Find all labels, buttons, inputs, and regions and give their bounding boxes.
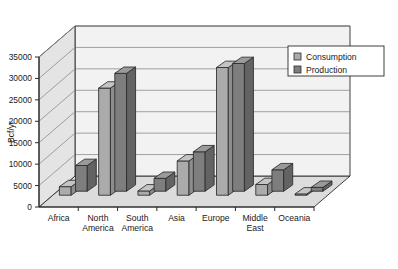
chart-legend: ConsumptionProduction [288, 46, 384, 76]
x-axis-label-asia: Asia [168, 213, 185, 223]
legend-label-consumption: Consumption [306, 52, 357, 62]
bar-production-5-front [272, 170, 284, 191]
bar-production-3-side [205, 145, 214, 191]
bar-production-5 [272, 163, 293, 191]
bar-production-1-side [127, 67, 136, 191]
legend-swatch-consumption [294, 53, 301, 60]
bar-production-4-side [244, 57, 253, 191]
bar-consumption-0-front [59, 187, 71, 196]
y-axis-tick-label-10000: 10000 [9, 159, 33, 169]
x-axis-label-north-america-line0: North [87, 213, 108, 223]
chart-left-wall [39, 26, 75, 207]
bar-chart-3d: 05000100001500020000250003000035000Bcf/y… [0, 0, 398, 269]
x-axis-label-middle-east-line0: Middle [242, 213, 268, 223]
bar-production-1-front [115, 73, 127, 191]
x-axis-label-africa: Africa [48, 213, 70, 223]
y-axis: 05000100001500020000250003000035000Bcf/y… [6, 52, 39, 212]
x-axis-label-north-america-line1: America [82, 223, 114, 233]
x-axis-label-middle-east-line1: East [246, 223, 264, 233]
chart-container: 05000100001500020000250003000035000Bcf/y… [0, 0, 398, 269]
x-axis-label-oceania: Oceania [278, 213, 310, 223]
y-axis-tick-label-0: 0 [27, 202, 32, 212]
y-axis-tick-label-25000: 25000 [9, 95, 33, 105]
y-axis-tick-label-30000: 30000 [9, 73, 33, 83]
bar-production-0 [76, 159, 97, 191]
bar-production-1 [115, 67, 136, 191]
bar-production-2-front [154, 178, 166, 191]
legend-swatch-production [294, 66, 301, 73]
bar-production-0-front [76, 166, 88, 192]
bar-consumption-2-front [138, 191, 150, 195]
y-axis-title: Bcf/yr [6, 121, 16, 143]
bar-consumption-4-front [217, 68, 229, 196]
x-axis-labels: AfricaNorthAmericaSouthAmericaAsiaEurope… [39, 207, 314, 233]
x-axis-label-europe: Europe [202, 213, 230, 223]
bar-production-3 [193, 145, 214, 191]
legend-label-production: Production [306, 65, 347, 75]
bar-consumption-3-front [177, 161, 189, 195]
y-axis-tick-label-5000: 5000 [13, 181, 32, 191]
bar-consumption-1-front [99, 88, 111, 195]
bar-consumption-5-front [256, 185, 268, 196]
x-axis-label-south-america-line1: America [121, 223, 153, 233]
x-axis-label-south-america-line0: South [126, 213, 149, 223]
y-axis-tick-label-35000: 35000 [9, 52, 33, 62]
bar-production-3-front [193, 152, 205, 191]
bar-production-4-front [233, 64, 245, 192]
bar-production-4 [233, 57, 254, 191]
bar-production-6-front [311, 187, 323, 191]
